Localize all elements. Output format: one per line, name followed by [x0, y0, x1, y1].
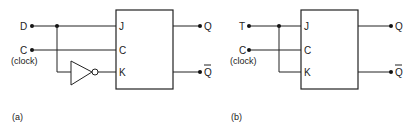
pin-c-a: C [119, 45, 126, 56]
q-output-terminal-a [198, 24, 202, 28]
flip-flop-diagrams: D C (clock) J C K Q Q (a) T [0, 0, 416, 131]
caption-a: (a) [12, 112, 23, 122]
qbar-output-terminal-b [389, 70, 393, 74]
q-output-label-b: Q [395, 21, 403, 32]
clock-note-a: (clock) [11, 56, 38, 66]
pin-k-b: K [304, 67, 311, 78]
q-output-terminal-b [389, 24, 393, 28]
clock-note-b: (clock) [230, 56, 257, 66]
clock-input-label-a: C [20, 45, 27, 56]
pin-j-a: J [119, 21, 124, 32]
qbar-output-label-a: Q [204, 67, 212, 78]
pin-c-b: C [304, 45, 311, 56]
t-to-k-wire [279, 26, 301, 72]
diagram-b: T C (clock) J C K Q Q (b) [230, 10, 403, 122]
t-input-label: T [239, 21, 245, 32]
inverter-gate-icon [71, 61, 92, 85]
caption-b: (b) [231, 112, 242, 122]
clock-input-label-b: C [239, 45, 246, 56]
qbar-output-terminal-a [198, 70, 202, 74]
diagram-a: D C (clock) J C K Q Q (a) [11, 10, 212, 122]
q-output-label-a: Q [204, 21, 212, 32]
d-to-inverter-wire [57, 26, 71, 72]
pin-j-b: J [304, 21, 309, 32]
qbar-output-label-b: Q [395, 67, 403, 78]
d-input-label: D [20, 21, 27, 32]
pin-k-a: K [119, 67, 126, 78]
